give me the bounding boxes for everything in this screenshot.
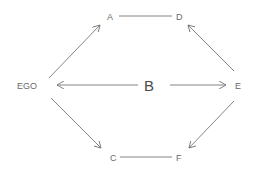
node-e: E [235, 81, 241, 91]
edge-e-f [189, 101, 234, 148]
node-c: C [110, 153, 117, 163]
node-b: B [144, 77, 154, 94]
node-a: A [107, 12, 113, 22]
node-f: F [176, 153, 182, 163]
edge-ego-c [51, 98, 101, 148]
node-ego: EGO [17, 81, 37, 91]
edge-ego-a [49, 25, 100, 78]
node-d: D [176, 12, 183, 22]
diagram-canvas: EGO A D B E C F [0, 0, 256, 172]
edge-e-d [188, 25, 234, 71]
